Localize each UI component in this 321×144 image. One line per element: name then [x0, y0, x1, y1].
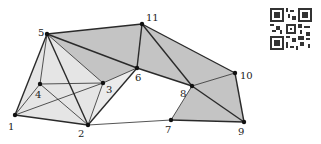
- vertex-label-8: 8: [180, 88, 186, 99]
- vertex-1: [13, 113, 17, 117]
- vertex-label-9: 9: [238, 126, 244, 137]
- vertex-label-5: 5: [38, 27, 44, 38]
- vertex-3: [101, 81, 105, 85]
- vertex-5: [45, 32, 49, 36]
- vertex-2: [86, 123, 90, 127]
- vertex-label-1: 1: [8, 121, 14, 132]
- vertex-10: [233, 71, 237, 75]
- vertex-7: [169, 118, 173, 122]
- vertex-8: [190, 84, 194, 88]
- vertex-label-6: 6: [135, 72, 141, 83]
- vertex-4: [38, 82, 42, 86]
- vertex-11: [140, 22, 144, 26]
- qr-code-icon: [270, 8, 312, 50]
- vertex-label-10: 10: [240, 70, 253, 81]
- vertex-label-2: 2: [78, 128, 84, 139]
- vertex-label-4: 4: [35, 89, 41, 100]
- vertex-label-11: 11: [146, 12, 159, 23]
- edge-thin: [88, 120, 171, 125]
- vertex-6: [135, 66, 139, 70]
- vertex-label-3: 3: [106, 84, 112, 95]
- vertex-label-7: 7: [165, 124, 171, 135]
- vertex-9: [242, 120, 246, 124]
